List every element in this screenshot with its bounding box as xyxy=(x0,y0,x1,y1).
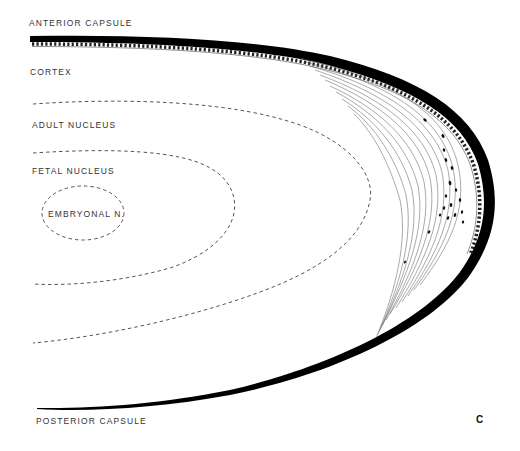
label-embryonal-nucleus: EMBRYONAL N. xyxy=(48,209,125,219)
label-posterior-capsule: POSTERIOR CAPSULE xyxy=(36,416,147,426)
panel-letter: C xyxy=(476,414,483,425)
lens-capsule xyxy=(30,36,495,410)
lens-epithelium xyxy=(32,44,480,255)
lens-diagram xyxy=(0,0,520,451)
label-fetal-nucleus: FETAL NUCLEUS xyxy=(32,166,115,176)
label-adult-nucleus: ADULT NUCLEUS xyxy=(32,120,116,130)
label-cortex: CORTEX xyxy=(30,67,72,77)
label-anterior-capsule: ANTERIOR CAPSULE xyxy=(29,18,133,28)
adult-nucleus-boundary xyxy=(33,101,371,343)
